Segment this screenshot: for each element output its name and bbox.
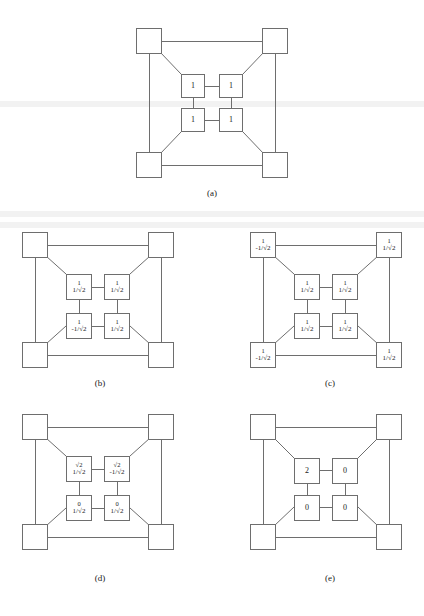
inner-node-value-bottom: 1/√2 (111, 326, 124, 333)
inner-node-value-bottom: 1/√2 (339, 287, 352, 294)
inner-node-value-bottom: 1/√2 (73, 508, 86, 515)
inner-node-bottom-right[interactable]: 0 (332, 495, 358, 521)
inner-node-top-right[interactable]: 1 (219, 74, 243, 98)
inner-node-value-bottom: -1/√2 (71, 326, 86, 333)
inner-node-value-bottom: 1/√2 (301, 326, 314, 333)
inner-node-top-left[interactable]: 1 1/√2 (66, 274, 92, 300)
corner-node-bottom-right[interactable] (148, 524, 174, 550)
inner-node-value: 0 (343, 467, 347, 475)
corner-node-top-left[interactable] (136, 28, 162, 54)
corner-node-value-bottom: 1/√2 (383, 245, 396, 252)
panel-e-caption: (e) (300, 573, 360, 583)
inner-node-top-right[interactable]: √2 -1/√2 (104, 456, 130, 482)
corner-node-top-left[interactable] (22, 232, 48, 258)
panel-b-caption: (b) (70, 378, 130, 388)
corner-node-value-bottom: -1/√2 (255, 245, 270, 252)
inner-node-bottom-right[interactable]: 1 1/√2 (104, 313, 130, 339)
inner-node-value: 1 (229, 82, 233, 90)
inner-node-value: 1 (191, 116, 195, 124)
panel-c-caption: (c) (300, 378, 360, 388)
corner-node-value-bottom: 1/√2 (383, 355, 396, 362)
inner-node-top-left[interactable]: √2 1/√2 (66, 456, 92, 482)
corner-node-value-bottom: -1/√2 (255, 355, 270, 362)
corner-node-bottom-left[interactable]: 1 -1/√2 (250, 342, 276, 368)
inner-node-bottom-left[interactable]: 0 1/√2 (66, 495, 92, 521)
inner-node-bottom-left[interactable]: 0 (294, 495, 320, 521)
panel-a: 1 1 1 1 (136, 28, 288, 178)
corner-node-bottom-left[interactable] (22, 524, 48, 550)
inner-node-value: 0 (305, 504, 309, 512)
corner-node-top-left[interactable] (22, 414, 48, 440)
corner-node-top-right[interactable]: 1 1/√2 (376, 232, 402, 258)
corner-node-top-left[interactable]: 1 -1/√2 (250, 232, 276, 258)
inner-node-bottom-left[interactable]: 1 -1/√2 (66, 313, 92, 339)
panel-a-caption: (a) (182, 188, 242, 198)
inner-node-value: 1 (191, 82, 195, 90)
inner-node-value: 2 (305, 467, 309, 475)
inner-node-top-left[interactable]: 1 1/√2 (294, 274, 320, 300)
figure-root: 1 1 1 1 (a) (0, 0, 424, 616)
inner-node-value-bottom: 1/√2 (73, 287, 86, 294)
inner-node-top-right[interactable]: 1 1/√2 (332, 274, 358, 300)
inner-node-bottom-left[interactable]: 1 (181, 108, 205, 132)
corner-node-top-left[interactable] (250, 414, 276, 440)
inner-node-value-bottom: 1/√2 (73, 469, 86, 476)
corner-node-bottom-right[interactable] (262, 152, 288, 178)
corner-node-bottom-right[interactable]: 1 1/√2 (376, 342, 402, 368)
corner-node-bottom-left[interactable] (22, 342, 48, 368)
corner-node-bottom-right[interactable] (148, 342, 174, 368)
panel-e: 2 0 0 0 (250, 414, 402, 550)
panel-d-caption: (d) (70, 573, 130, 583)
inner-node-value-bottom: 1/√2 (111, 508, 124, 515)
inner-node-top-left[interactable]: 2 (294, 458, 320, 484)
inner-node-top-left[interactable]: 1 (181, 74, 205, 98)
inner-node-value-bottom: -1/√2 (109, 469, 124, 476)
panel-c: 1 -1/√2 1 1/√2 1 -1/√2 1 1/√2 1 1/√2 1 1… (250, 232, 402, 368)
corner-node-bottom-left[interactable] (250, 524, 276, 550)
corner-node-bottom-left[interactable] (136, 152, 162, 178)
corner-node-top-right[interactable] (262, 28, 288, 54)
inner-node-value-bottom: 1/√2 (111, 287, 124, 294)
corner-node-top-right[interactable] (148, 414, 174, 440)
corner-node-bottom-right[interactable] (376, 524, 402, 550)
scan-artifact-2 (0, 211, 424, 217)
corner-node-top-right[interactable] (376, 414, 402, 440)
inner-node-value: 1 (229, 116, 233, 124)
inner-node-bottom-right[interactable]: 1 1/√2 (332, 313, 358, 339)
inner-node-top-right[interactable]: 1 1/√2 (104, 274, 130, 300)
inner-node-bottom-right[interactable]: 1 (219, 108, 243, 132)
inner-node-top-right[interactable]: 0 (332, 458, 358, 484)
scan-artifact-3 (0, 222, 424, 228)
panel-b: 1 1/√2 1 1/√2 1 -1/√2 1 1/√2 (22, 232, 174, 368)
panel-d: √2 1/√2 √2 -1/√2 0 1/√2 0 1/√2 (22, 414, 174, 550)
corner-node-top-right[interactable] (148, 232, 174, 258)
inner-node-value-bottom: 1/√2 (339, 326, 352, 333)
inner-node-bottom-right[interactable]: 0 1/√2 (104, 495, 130, 521)
inner-node-value: 0 (343, 504, 347, 512)
inner-node-value-bottom: 1/√2 (301, 287, 314, 294)
inner-node-bottom-left[interactable]: 1 1/√2 (294, 313, 320, 339)
